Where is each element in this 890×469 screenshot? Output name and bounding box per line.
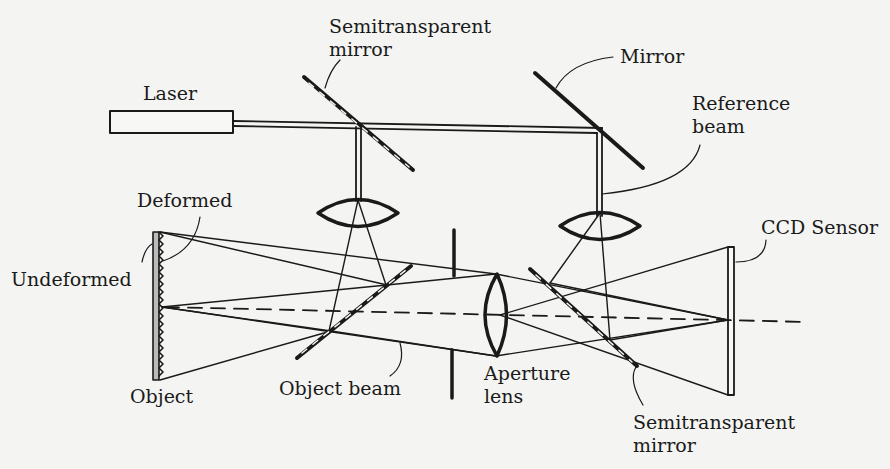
object (153, 232, 163, 380)
label-deformed: Deformed (137, 189, 232, 211)
object-rays (160, 232, 496, 380)
laser-body (110, 111, 233, 133)
label-undeformed: Undeformed (11, 268, 132, 290)
label-semi-mirror-bottom-1: Semitransparent (633, 411, 795, 433)
reference-beam (597, 128, 602, 216)
leader-deformed (163, 217, 200, 261)
label-aperture-lens: lens (484, 385, 523, 407)
label-mirror: Mirror (620, 45, 685, 67)
optical-setup-diagram: Laser Semitransparent mirror Mirror Refe… (0, 0, 890, 469)
label-laser: Laser (143, 82, 198, 104)
laser-beam (233, 121, 602, 133)
leader-object-beam (390, 343, 402, 376)
object-illumination-beam (356, 127, 361, 201)
label-aperture: Aperture (483, 362, 570, 384)
label-semi-mirror-top-1: Semitransparent (329, 15, 491, 37)
leader-reference-beam (602, 145, 700, 194)
leader-semi-mirror-top (325, 60, 340, 88)
leader-mirror (556, 57, 613, 88)
label-object-beam: Object beam (279, 377, 401, 399)
label-reference-beam-1: Reference (692, 92, 790, 114)
label-object: Object (130, 385, 194, 407)
label-reference-beam-2: beam (692, 115, 745, 137)
mirror (535, 73, 643, 168)
leader-ccd (736, 240, 766, 262)
leader-undeformed (142, 244, 152, 262)
label-semi-mirror-bottom-2: mirror (633, 434, 697, 456)
leader-semi-mirror-bottom (633, 367, 643, 405)
label-semi-mirror-top-2: mirror (329, 38, 393, 60)
lens-object-illumination (318, 200, 398, 227)
reference-rays (550, 213, 610, 340)
label-ccd-sensor: CCD Sensor (761, 216, 879, 238)
